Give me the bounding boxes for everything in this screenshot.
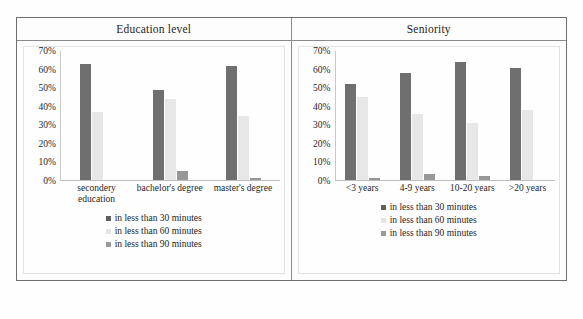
- x-tick-label: 4-9 years: [390, 183, 445, 194]
- y-tick-label: 40%: [313, 102, 330, 112]
- x-tick-label: 10-20 years: [445, 183, 500, 194]
- y-tick-label: 20%: [313, 139, 330, 149]
- legend-square-icon: [381, 218, 386, 223]
- chart-education-level: 0%10%20%30%40%50%60%70% secondery educat…: [23, 46, 285, 274]
- figure-root: Education level Seniority 0%10%20%30%40%…: [0, 0, 583, 319]
- x-tick-label: secondery education: [60, 183, 133, 205]
- legend-item-label: in less than 90 minutes: [390, 228, 477, 238]
- legend-item-label: in less than 60 minutes: [115, 226, 202, 236]
- bar-0: [80, 64, 91, 180]
- legend-item: in less than 90 minutes: [381, 228, 477, 238]
- legend-item-label: in less than 90 minutes: [115, 239, 202, 249]
- bar-groups-left: [61, 51, 280, 180]
- figure-table: Education level Seniority 0%10%20%30%40%…: [16, 17, 567, 281]
- bar-group: [390, 51, 445, 180]
- y-axis-labels-right: 0%10%20%30%40%50%60%70%: [299, 51, 333, 181]
- legend-square-icon: [381, 231, 386, 236]
- plot-area-wrapper: 0%10%20%30%40%50%60%70%: [299, 51, 560, 181]
- y-tick-label: 60%: [39, 65, 56, 75]
- table-body-row: 0%10%20%30%40%50%60%70% secondery educat…: [17, 41, 566, 280]
- y-tick-label: 30%: [39, 120, 56, 130]
- y-tick-label: 70%: [313, 46, 330, 56]
- bar-1: [412, 114, 423, 180]
- legend-left: in less than 30 minutesin less than 60 m…: [24, 213, 284, 249]
- y-tick-label: 70%: [39, 46, 56, 56]
- bar-group: [500, 51, 555, 180]
- bar-group: [61, 51, 134, 180]
- legend-item: in less than 30 minutes: [381, 202, 477, 212]
- bar-0: [455, 62, 466, 180]
- x-tick-label: >20 years: [500, 183, 555, 194]
- x-tick-label: <3 years: [335, 183, 390, 194]
- legend-item: in less than 30 minutes: [106, 213, 202, 223]
- bar-2: [369, 178, 380, 180]
- column-header-education-level: Education level: [17, 18, 292, 40]
- legend-square-icon: [106, 242, 111, 247]
- legend-square-icon: [106, 216, 111, 221]
- y-tick-label: 0%: [43, 176, 56, 186]
- plot-area-right: [335, 51, 556, 181]
- bar-1: [522, 110, 533, 180]
- x-tick-label: bachelor's degree: [133, 183, 206, 205]
- bar-1: [238, 116, 249, 181]
- y-tick-label: 0%: [318, 176, 331, 186]
- bar-1: [467, 123, 478, 180]
- legend-item-label: in less than 30 minutes: [115, 213, 202, 223]
- legend-item: in less than 90 minutes: [106, 239, 202, 249]
- column-header-label: Seniority: [407, 23, 451, 35]
- chart-seniority: 0%10%20%30%40%50%60%70% <3 years4-9 year…: [298, 46, 561, 274]
- legend-item-label: in less than 30 minutes: [390, 202, 477, 212]
- plot-area-wrapper: 0%10%20%30%40%50%60%70%: [24, 51, 284, 181]
- bar-group: [445, 51, 500, 180]
- bar-group: [134, 51, 207, 180]
- bar-0: [510, 68, 521, 180]
- legend-item: in less than 60 minutes: [381, 215, 477, 225]
- y-tick-label: 30%: [313, 120, 330, 130]
- y-tick-label: 10%: [313, 157, 330, 167]
- bar-1: [357, 97, 368, 180]
- bar-2: [250, 178, 261, 180]
- bar-groups-right: [336, 51, 556, 180]
- y-tick-label: 10%: [39, 157, 56, 167]
- bar-1: [92, 112, 103, 180]
- y-axis-labels-left: 0%10%20%30%40%50%60%70%: [24, 51, 58, 181]
- column-header-label: Education level: [116, 23, 191, 35]
- bar-1: [165, 99, 176, 180]
- legend-item-label: in less than 60 minutes: [390, 215, 477, 225]
- bar-0: [153, 90, 164, 180]
- bar-0: [400, 73, 411, 180]
- bar-2: [177, 171, 188, 180]
- bar-group: [207, 51, 280, 180]
- plot-area-left: [60, 51, 280, 181]
- legend-right: in less than 30 minutesin less than 60 m…: [299, 202, 560, 238]
- y-tick-label: 50%: [313, 83, 330, 93]
- y-tick-label: 60%: [313, 65, 330, 75]
- column-header-seniority: Seniority: [292, 18, 567, 40]
- bar-0: [345, 84, 356, 180]
- y-tick-label: 40%: [39, 102, 56, 112]
- x-tick-label: master's degree: [206, 183, 279, 205]
- x-axis-labels-right: <3 years4-9 years10-20 years>20 years: [335, 183, 556, 194]
- chart-cell-seniority: 0%10%20%30%40%50%60%70% <3 years4-9 year…: [292, 41, 567, 280]
- y-tick-label: 50%: [39, 83, 56, 93]
- bar-2: [424, 174, 435, 180]
- legend-square-icon: [381, 205, 386, 210]
- x-axis-labels-left: secondery educationbachelor's degreemast…: [60, 183, 280, 205]
- table-header-row: Education level Seniority: [17, 18, 566, 41]
- chart-cell-education-level: 0%10%20%30%40%50%60%70% secondery educat…: [17, 41, 292, 280]
- y-tick-label: 20%: [39, 139, 56, 149]
- bar-group: [336, 51, 391, 180]
- bar-2: [479, 176, 490, 180]
- legend-square-icon: [106, 229, 111, 234]
- legend-item: in less than 60 minutes: [106, 226, 202, 236]
- bar-0: [226, 66, 237, 180]
